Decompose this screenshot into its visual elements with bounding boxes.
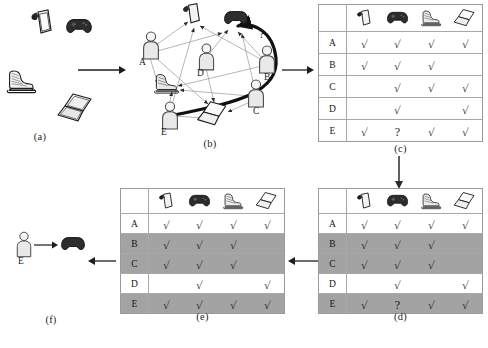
graph-gamepad-icon xyxy=(223,10,249,30)
check-mark: √ xyxy=(360,300,367,311)
result-person-e xyxy=(14,230,34,262)
matrix-corner-cell xyxy=(121,189,149,214)
tablet-icon xyxy=(149,189,183,213)
column-header-tablet-icon xyxy=(347,5,381,32)
check-mark: √ xyxy=(462,300,469,311)
matrix-row-d: D√√ xyxy=(319,98,483,120)
cell-c-laptop xyxy=(449,254,483,274)
arrow-b-to-c xyxy=(282,60,316,80)
check-mark: √ xyxy=(196,280,203,291)
check-mark: √ xyxy=(428,260,435,271)
check-mark: √ xyxy=(462,105,469,116)
cell-c-gamepad: √ xyxy=(381,76,415,98)
row-label-a: A xyxy=(319,214,347,234)
cell-b-laptop xyxy=(449,234,483,254)
cell-d-tablet xyxy=(347,274,381,294)
check-mark: √ xyxy=(360,220,367,231)
matrix-row-c: C√√√ xyxy=(121,254,285,274)
matrix-row-e: E√?√√ xyxy=(319,120,483,142)
cell-e-tablet: √ xyxy=(347,120,381,142)
figure-root: (a) xyxy=(0,0,488,348)
graph-tablet-icon xyxy=(180,2,202,31)
check-mark: √ xyxy=(394,105,401,116)
arrow-a-to-b xyxy=(76,60,128,80)
matrix-row-c: C√√√ xyxy=(319,76,483,98)
unknown-edge-marker: ? xyxy=(259,27,264,42)
check-mark: √ xyxy=(428,127,435,138)
column-header-gamepad-icon xyxy=(381,189,415,214)
cell-c-tablet xyxy=(347,76,381,98)
matrix-row-a: A√√√√ xyxy=(121,214,285,234)
cell-b-ice-skate: √ xyxy=(415,234,449,254)
matrix-header-row xyxy=(319,5,483,32)
arrow-c-to-d xyxy=(392,156,406,190)
cell-e-laptop: √ xyxy=(449,120,483,142)
matrix-row-b: B√√√ xyxy=(319,234,483,254)
cell-a-laptop: √ xyxy=(449,32,483,54)
row-label-c: C xyxy=(121,254,149,274)
panel-f: E (f) xyxy=(6,228,96,338)
cell-c-tablet: √ xyxy=(149,254,183,274)
cell-c-ice-skate: √ xyxy=(415,76,449,98)
panel-c: A√√√√B√√√C√√√D√√E√?√√ (c) xyxy=(318,4,483,142)
cell-a-ice-skate: √ xyxy=(415,32,449,54)
check-mark: √ xyxy=(462,220,469,231)
graph-laptop-icon xyxy=(196,100,230,133)
cell-a-gamepad: √ xyxy=(381,32,415,54)
result-label-e: E xyxy=(18,256,24,266)
caption-f: (f) xyxy=(16,314,86,325)
check-mark: √ xyxy=(196,240,203,251)
column-header-gamepad-icon xyxy=(381,5,415,32)
check-mark: √ xyxy=(162,240,169,251)
check-mark: √ xyxy=(264,300,271,311)
cell-b-ice-skate: √ xyxy=(217,234,251,254)
cell-b-tablet: √ xyxy=(347,234,381,254)
cell-a-tablet: √ xyxy=(149,214,183,234)
cell-d-laptop: √ xyxy=(251,274,285,294)
check-mark: √ xyxy=(360,61,367,72)
unknown-cell-marker: ? xyxy=(395,299,400,311)
row-label-b: B xyxy=(319,234,347,254)
panel-d: A√√√√B√√√C√√√D√√E√?√√ (d) xyxy=(318,188,483,314)
cell-b-gamepad: √ xyxy=(183,234,217,254)
cell-a-gamepad: √ xyxy=(183,214,217,234)
cell-b-tablet: √ xyxy=(347,54,381,76)
check-mark: √ xyxy=(462,127,469,138)
row-label-a: A xyxy=(319,32,347,54)
arrow-e-to-gamepad xyxy=(34,238,60,252)
laptop-icon xyxy=(56,92,96,130)
column-header-ice-skate-icon xyxy=(415,189,449,214)
cell-a-ice-skate: √ xyxy=(217,214,251,234)
check-mark: √ xyxy=(162,260,169,271)
matrix-header-row xyxy=(319,189,483,214)
matrix-corner-cell xyxy=(319,189,347,214)
cell-a-tablet: √ xyxy=(347,214,381,234)
ice-skate-icon xyxy=(217,189,251,213)
graph-label-e: E xyxy=(161,127,167,137)
graph-ice-skate-icon xyxy=(152,72,182,100)
column-header-gamepad-icon xyxy=(183,189,217,214)
cell-d-laptop: √ xyxy=(449,274,483,294)
matrix-row-b: B√√√ xyxy=(319,54,483,76)
column-header-laptop-icon xyxy=(449,189,483,214)
check-mark: √ xyxy=(360,260,367,271)
cell-b-ice-skate: √ xyxy=(415,54,449,76)
cell-c-laptop xyxy=(251,254,285,274)
check-mark: √ xyxy=(196,220,203,231)
matrix-corner-cell xyxy=(319,5,347,32)
matrix-row-d: D√√ xyxy=(319,274,483,294)
check-mark: √ xyxy=(462,83,469,94)
cell-a-tablet: √ xyxy=(347,32,381,54)
panel-e: A√√√√B√√√C√√√D√√E√√√√ (e) xyxy=(120,188,285,314)
column-header-ice-skate-icon xyxy=(415,5,449,32)
check-mark: √ xyxy=(230,260,237,271)
caption-c: (c) xyxy=(318,143,483,154)
gamepad-icon xyxy=(65,18,93,39)
check-mark: √ xyxy=(360,39,367,50)
graph-label-d: D xyxy=(197,68,204,78)
matrix-row-b: B√√√ xyxy=(121,234,285,254)
check-mark: √ xyxy=(360,240,367,251)
check-mark: √ xyxy=(394,280,401,291)
check-mark: √ xyxy=(230,240,237,251)
cell-c-tablet: √ xyxy=(347,254,381,274)
